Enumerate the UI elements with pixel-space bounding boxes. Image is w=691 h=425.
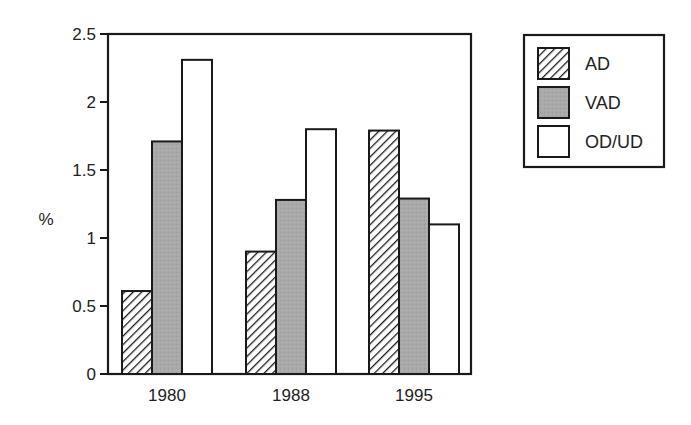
bar-group-1988	[246, 129, 336, 374]
bar-vad-1980	[152, 141, 182, 374]
bar-ad-1988	[246, 252, 276, 374]
legend-swatch-vad	[538, 87, 569, 118]
legend: ADVADOD/UD	[524, 35, 664, 167]
x-axis: 198019881995	[148, 386, 433, 405]
bar-vad-1988	[276, 200, 306, 374]
legend-label: VAD	[585, 93, 621, 113]
legend-swatch-ad	[538, 48, 569, 79]
y-tick-label: 2.5	[72, 25, 96, 44]
y-tick-label: 1	[87, 229, 96, 248]
legend-label: OD/UD	[585, 132, 643, 152]
y-tick-label: 0.5	[72, 297, 96, 316]
y-tick-label: 0	[87, 365, 96, 384]
y-tick-label: 2	[87, 93, 96, 112]
x-category-label: 1995	[395, 386, 433, 405]
y-axis-title: %	[38, 210, 53, 229]
x-category-label: 1980	[148, 386, 186, 405]
x-category-label: 1988	[272, 386, 310, 405]
bar-group-1980	[122, 60, 212, 374]
bar-od-ud-1995	[429, 224, 459, 374]
y-axis: 00.511.522.5	[72, 25, 108, 384]
legend-label: AD	[585, 54, 610, 74]
bar-group-1995	[369, 131, 459, 374]
bars	[122, 60, 459, 374]
legend-swatch-od-ud	[538, 126, 569, 157]
bar-ad-1995	[369, 131, 399, 374]
bar-vad-1995	[399, 199, 429, 374]
y-tick-label: 1.5	[72, 161, 96, 180]
bar-ad-1980	[122, 291, 152, 374]
bar-od-ud-1980	[182, 60, 212, 374]
bar-od-ud-1988	[306, 129, 336, 374]
bar-chart: 00.511.522.5 % 198019881995 ADVADOD/UD	[0, 0, 691, 425]
